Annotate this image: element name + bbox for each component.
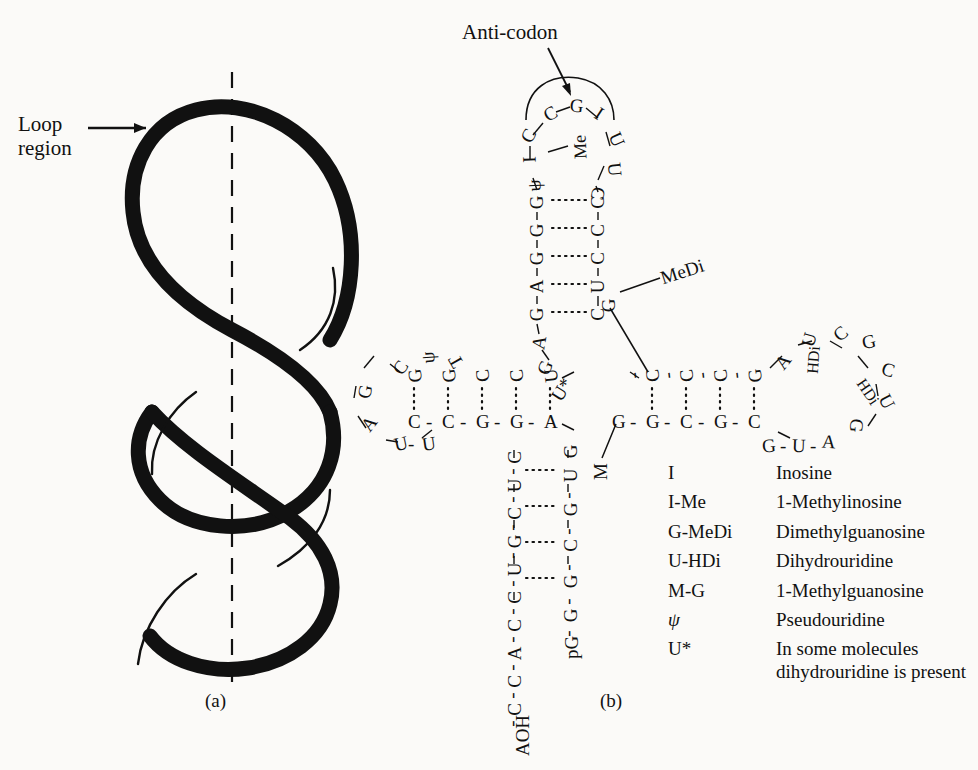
- acc3-dash-2: -: [502, 496, 521, 502]
- acceptor-3p-3: C: [505, 507, 524, 520]
- loop-region-label-line1: Loop: [18, 112, 72, 136]
- acceptor-3p-1: C: [505, 451, 524, 464]
- t-arm-hbonds: [414, 388, 550, 412]
- medi-to-dstem-connector: [610, 308, 648, 372]
- anticodon-stem-hbonds: [552, 200, 586, 312]
- acceptor-3p-6: C: [505, 591, 524, 604]
- acceptor-5p-4: C: [561, 539, 580, 552]
- d-loop-base-hdi1: HDi: [805, 346, 823, 375]
- legend-row: G-MeDi Dimethylguanosine: [668, 521, 978, 543]
- anticodon-base-g: G: [569, 95, 585, 115]
- d-arm-hbonds: [652, 388, 754, 412]
- anticodon-stem-backbone: [537, 186, 598, 360]
- legend-symbol: ψ: [668, 609, 776, 631]
- d-stem-top-4: G: [745, 368, 765, 384]
- ac-stem-left-1: G: [527, 196, 546, 210]
- acc3-dash-4: -: [502, 552, 521, 558]
- legend-definition: In some molecules dihydrouridine is pres…: [776, 638, 966, 683]
- legend-definition: Dimethylguanosine: [776, 521, 978, 543]
- anticodon-label: Anti-codon: [462, 20, 558, 45]
- d-stem-dash-2: -: [664, 412, 670, 431]
- panel-b-caption: (b): [600, 690, 622, 712]
- acceptor-5p-3: G: [561, 503, 580, 517]
- acceptor-3p-2: U: [505, 479, 524, 493]
- t-stem-bottom-2: C: [442, 412, 455, 431]
- t-stem-bottom-3: G: [476, 412, 490, 431]
- acc3-dash-8: -: [502, 664, 521, 670]
- anticodon-base-u2: U: [605, 162, 625, 178]
- t-stem-dash-4: -: [528, 412, 534, 431]
- acceptor-5p-5: G: [561, 575, 580, 589]
- m-label: M: [591, 463, 610, 480]
- figure-page: Loop region (a): [0, 0, 978, 770]
- d-loop-base-u3: U: [792, 436, 806, 455]
- d-loop-base-g2: G: [847, 418, 867, 433]
- ac-stem-left-4: A: [527, 280, 546, 294]
- ac-stem-right-2: C: [588, 224, 607, 237]
- legend-symbol: M-G: [668, 580, 776, 602]
- legend-definition: 1-Methylguanosine: [776, 580, 978, 602]
- t-stem-dash-3: -: [494, 412, 500, 431]
- acc3-dash-3: -: [502, 524, 521, 530]
- legend-definition: Pseudouridine: [776, 609, 978, 631]
- legend-definition: Inosine: [776, 462, 978, 484]
- ac-stem-right-6-g-medi: G: [599, 299, 618, 313]
- acc5-dash-3: -: [558, 564, 577, 570]
- t-stem-dash-2: -: [460, 412, 466, 431]
- acceptor-5p-2: U: [561, 469, 580, 483]
- legend-definition: 1-Methylinosine: [776, 491, 978, 513]
- d-stem-bottom-3: C: [680, 412, 693, 431]
- d-stem-dash-4: -: [732, 412, 738, 431]
- t-stem-bottom-4: G: [510, 412, 524, 431]
- acc3-dash-5: -: [502, 580, 521, 586]
- d-loop-dash-2: -: [810, 436, 816, 455]
- loop-region-label: Loop region: [18, 112, 72, 160]
- t-stem-dash-1: -: [426, 412, 432, 431]
- acc5-dash-5: -: [558, 630, 577, 636]
- legend-symbol: U-HDi: [668, 550, 776, 572]
- d-stem-bottom-1: G: [612, 412, 626, 431]
- legend-row: M-G 1-Methylguanosine: [668, 580, 978, 602]
- loop-region-label-line2: region: [18, 136, 72, 160]
- t-stem-top-2: G: [439, 368, 459, 384]
- medi-leader-line: [620, 278, 660, 292]
- acc3-dash-10: -: [502, 720, 521, 726]
- anticodon-modifier-psi: ψ: [524, 179, 543, 192]
- panel-a-caption: (a): [205, 690, 226, 712]
- d-stem-bottom-2: G: [646, 412, 660, 431]
- legend-symbol: I: [668, 462, 776, 484]
- acceptor-stem-hbonds: [526, 470, 556, 578]
- anticodon-arrow: [548, 48, 571, 96]
- t-stem-top-1: G: [405, 368, 425, 384]
- acc5-dash-2: -: [558, 528, 577, 534]
- t-stem-top-4: C: [506, 368, 526, 383]
- d-stem-bottom-5: C: [748, 412, 761, 431]
- acceptor-3p-7: C: [505, 619, 524, 632]
- anticodon-modifier-me: Me: [571, 135, 590, 160]
- legend-row: I Inosine: [668, 462, 978, 484]
- modified-base-legend: I Inosine I-Me 1-Methylinosine G-MeDi Di…: [668, 462, 978, 690]
- acc3-dash-6: -: [502, 608, 521, 614]
- ac-stem-right-3: C: [588, 252, 607, 265]
- t-stem-top-3: C: [472, 368, 492, 383]
- helix-ribbon-top-turn: [132, 107, 351, 412]
- acc3-dash-7: -: [502, 636, 521, 642]
- legend-definition: Dihydrouridine: [776, 550, 978, 572]
- ac-stem-left-5: G: [527, 308, 546, 322]
- d-loop-dash-1: -: [780, 436, 786, 455]
- d-loop-base-a2: A: [821, 432, 836, 452]
- legend-row: I-Me 1-Methylinosine: [668, 491, 978, 513]
- anticodon-base-i-me-i: I: [520, 156, 539, 163]
- acceptor-5p-6: G: [561, 609, 580, 623]
- d-loop-base-g3: G: [761, 435, 777, 455]
- acceptor-5p-1: G: [561, 445, 580, 459]
- ac-stem-left-2: G: [527, 224, 546, 238]
- acceptor-3p-9: C: [505, 675, 524, 688]
- d-stem-bottom-4: G: [714, 412, 728, 431]
- t-stem-top-5: U: [541, 368, 561, 384]
- d-stem-dash-1: -: [630, 412, 636, 431]
- acceptor-3p-4: G: [505, 535, 524, 549]
- acc5-dash-4: -: [558, 598, 577, 604]
- acceptor-3p-5: U: [505, 563, 524, 577]
- t-stem-bottom-5: A: [544, 412, 558, 431]
